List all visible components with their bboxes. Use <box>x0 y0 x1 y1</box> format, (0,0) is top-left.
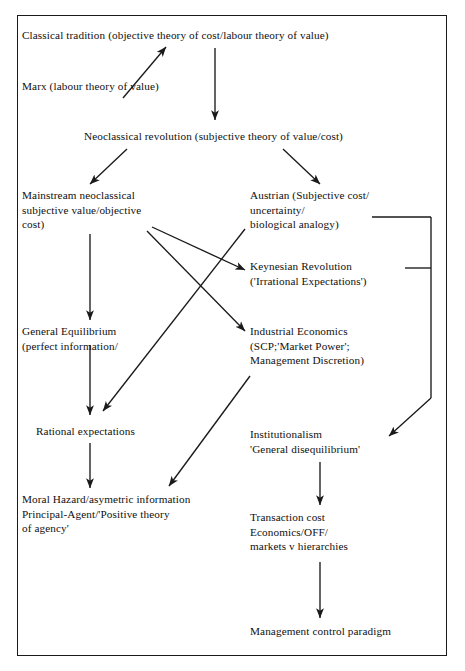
node-keynesian-revolution: Keynesian Revolution('Irrational Expecta… <box>250 259 367 288</box>
node-institutionalism-line: 'General disequilibrium' <box>250 442 360 457</box>
node-general-equilibrium-line: (perfect information/ <box>22 339 118 354</box>
node-mainstream-neoclassical-line: cost) <box>22 217 141 232</box>
node-keynesian-revolution-line: ('Irrational Expectations') <box>250 274 367 289</box>
node-industrial-economics-line: (SCP;'Market Power'; <box>250 339 364 354</box>
node-mainstream-neoclassical-line: Mainstream neoclassical <box>22 188 141 203</box>
node-marx-line: Marx (labour theory of value) <box>22 79 159 94</box>
node-industrial-economics: Industrial Economics(SCP;'Market Power';… <box>250 324 364 368</box>
node-transaction-cost: Transaction costEconomics/OFF/markets v … <box>250 510 348 554</box>
node-institutionalism-line: Institutionalism <box>250 427 360 442</box>
node-management-control: Management control paradigm <box>250 624 391 639</box>
node-austrian-line: biological analogy) <box>250 217 369 232</box>
node-moral-hazard-line: of agency' <box>22 521 190 536</box>
node-classical-tradition: Classical tradition (objective theory of… <box>22 28 329 43</box>
node-mainstream-neoclassical: Mainstream neoclassicalsubjective value/… <box>22 188 141 232</box>
node-austrian-line: uncertainty/ <box>250 203 369 218</box>
node-mainstream-neoclassical-line: subjective value/objective <box>22 203 141 218</box>
node-moral-hazard-line: Moral Hazard/asymetric information <box>22 492 190 507</box>
node-moral-hazard-line: Principal-Agent/'Positive theory <box>22 507 190 522</box>
node-transaction-cost-line: markets v hierarchies <box>250 539 348 554</box>
node-marx: Marx (labour theory of value) <box>22 79 159 94</box>
node-general-equilibrium-line: General Equilibrium <box>22 324 118 339</box>
node-institutionalism: Institutionalism'General disequilibrium' <box>250 427 360 456</box>
node-neoclassical-revolution-line: Neoclassical revolution (subjective theo… <box>84 129 343 144</box>
node-general-equilibrium: General Equilibrium(perfect information/ <box>22 324 118 353</box>
node-rational-expectations-line: Rational expectations <box>36 424 135 439</box>
node-keynesian-revolution-line: Keynesian Revolution <box>250 259 367 274</box>
diagram-page: Classical tradition (objective theory of… <box>0 0 465 671</box>
node-neoclassical-revolution: Neoclassical revolution (subjective theo… <box>84 129 343 144</box>
node-moral-hazard: Moral Hazard/asymetric informationPrinci… <box>22 492 190 536</box>
node-rational-expectations: Rational expectations <box>36 424 135 439</box>
node-transaction-cost-line: Economics/OFF/ <box>250 525 348 540</box>
node-classical-tradition-line: Classical tradition (objective theory of… <box>22 28 329 43</box>
node-management-control-line: Management control paradigm <box>250 624 391 639</box>
node-austrian-line: Austrian (Subjective cost/ <box>250 188 369 203</box>
node-industrial-economics-line: Industrial Economics <box>250 324 364 339</box>
node-transaction-cost-line: Transaction cost <box>250 510 348 525</box>
node-austrian: Austrian (Subjective cost/uncertainty/bi… <box>250 188 369 232</box>
node-industrial-economics-line: Management Discretion) <box>250 353 364 368</box>
